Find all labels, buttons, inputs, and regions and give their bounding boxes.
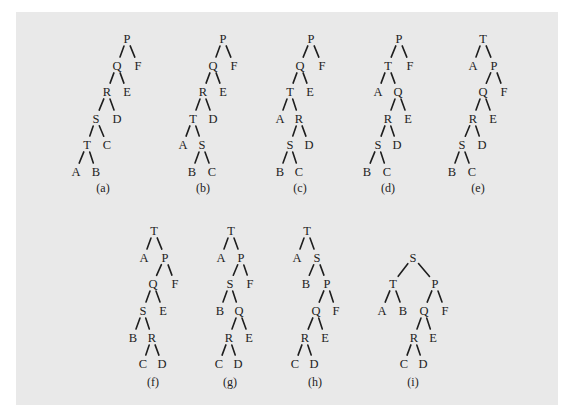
node-r: R [410,331,419,345]
node-d: D [304,138,313,152]
tree-b: PQFRETDASBC(b) [178,32,237,196]
edge-q-t [293,73,297,83]
tree-e: TAPQFRESDBC(e) [448,32,508,196]
node-s: S [227,277,234,291]
node-t: T [189,112,197,126]
node-b: B [448,165,456,179]
node-r: R [225,331,234,345]
edge-t-b [90,152,94,163]
edge-t-a [476,46,480,57]
edge-r-d [206,99,210,110]
edge-s-c [465,152,469,163]
edge-s-c [381,152,385,163]
edge-t-b [396,291,400,302]
edge-t-a [186,126,190,136]
edge-q-e [319,318,323,329]
node-b: B [216,304,224,318]
edge-q-e [120,73,124,83]
node-b: B [363,165,371,179]
node-s: S [287,138,294,152]
edge-s-b [223,291,227,302]
node-t: T [479,32,487,46]
node-q: Q [112,59,121,73]
edge-t-a [381,73,385,83]
edge-q-e [242,318,246,329]
node-b: B [399,304,407,318]
edge-p-f [168,265,172,275]
tree-rotations-figure: PQFRESDTCAB(a)PQFRETDASBC(b)PQFTEARSDBC(… [0,0,575,420]
edge-t-a [224,238,228,249]
edge-t-p [234,238,238,249]
node-c: C [139,357,147,371]
edge-t-r [293,99,297,110]
node-e: E [429,331,437,345]
edge-q-r [232,318,236,329]
edge-p-f [402,46,407,57]
edge-t-s [196,126,199,136]
edge-s-p [419,264,430,277]
node-p: P [324,277,331,291]
node-t: T [83,138,91,152]
edge-q-e [156,291,160,302]
node-f: F [407,59,414,73]
edge-p-s [233,265,237,275]
edge-t-a [385,291,390,302]
node-b: B [92,165,100,179]
edge-s-b [309,265,313,275]
node-r: R [295,112,304,126]
node-t: T [286,85,294,99]
edge-p-t [391,46,396,57]
node-f: F [231,59,238,73]
tree-f: TAPQFSEBRCD(f) [129,224,179,390]
edge-r-d [417,345,420,355]
edge-q-s [146,291,150,302]
node-b: B [302,277,310,291]
node-f: F [442,304,449,318]
edge-s-b [370,152,375,163]
edge-p-q [303,46,308,57]
node-s: S [140,304,147,318]
node-f: F [319,59,326,73]
edge-s-t [90,126,93,136]
node-a: A [275,112,284,126]
edge-q-r [417,318,421,329]
edge-p-q [319,291,324,302]
edge-s-b [195,152,199,163]
edge-r-d [155,345,159,355]
edge-s-t [398,264,408,277]
edge-r-d [302,126,306,136]
node-a: A [292,251,301,265]
tree-caption: (h) [308,375,322,389]
node-c: C [103,138,111,152]
edge-q-e [427,318,431,329]
edge-s-p [320,265,324,275]
node-a: A [139,251,148,265]
edge-r-s [381,126,385,136]
node-r: R [384,112,393,126]
edge-r-s [293,126,296,136]
node-c: C [383,165,391,179]
node-d: D [477,138,486,152]
tree-caption: (f) [147,375,159,389]
node-p: P [238,251,245,265]
edge-p-q [216,46,220,57]
node-q: Q [148,277,157,291]
node-c: C [295,165,303,179]
tree-a: PQFRESDTCAB(a) [71,32,141,196]
edge-p-f [244,265,247,275]
tree-caption: (a) [96,181,109,195]
edge-p-f [314,46,319,57]
node-q: Q [393,85,402,99]
node-t: T [389,277,397,291]
tree-h: TASBPQFRECD(h) [291,224,340,390]
edge-s-b [455,152,459,163]
node-d: D [309,357,318,371]
node-d: D [392,138,401,152]
node-r: R [103,85,112,99]
node-s: S [93,112,100,126]
node-p: P [308,32,315,46]
node-q: Q [295,59,304,73]
edge-r-d [110,99,114,110]
edge-s-b [136,318,140,329]
tree-caption: (c) [293,181,306,195]
